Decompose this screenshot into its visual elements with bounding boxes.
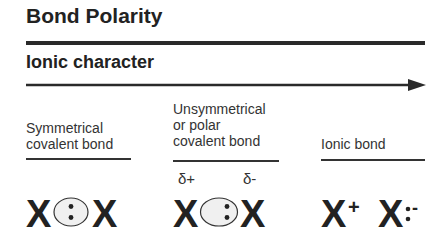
positive-charge: + [348, 196, 360, 219]
atom-x-left: X [26, 195, 51, 233]
title-divider [26, 41, 425, 45]
label-line: Unsymmetrical [173, 101, 266, 117]
label-underline [173, 160, 279, 162]
partial-negative-charge: δ- [243, 170, 256, 187]
ionic-bond-label: Ionic bond [321, 136, 386, 152]
cation-x: X [321, 195, 346, 233]
polar-electron-orbital-icon [199, 196, 239, 228]
label-line: covalent bond [173, 133, 266, 149]
atom-x-left: X [173, 195, 198, 233]
negative-charge: - [412, 198, 418, 219]
polar-covalent-label: Unsymmetrical or polar covalent bond [173, 101, 266, 149]
label-line: Ionic bond [321, 136, 386, 152]
label-line: or polar [173, 117, 266, 133]
partial-positive-charge: δ+ [178, 170, 195, 187]
axis-label: Ionic character [26, 52, 154, 73]
label-underline [321, 159, 425, 161]
diagram-title: Bond Polarity [26, 4, 163, 28]
atom-x-right: X [92, 195, 117, 233]
anion-x: X [378, 195, 403, 233]
atom-x-right: X [240, 195, 265, 233]
symmetrical-covalent-label: Symmetrical covalent bond [26, 120, 113, 152]
shared-electron-orbital-icon [52, 196, 90, 228]
ionic-character-arrow [26, 78, 426, 92]
label-line: Symmetrical [26, 120, 113, 136]
label-underline [26, 158, 131, 160]
lone-pair-icon [405, 206, 411, 222]
label-line: covalent bond [26, 136, 113, 152]
